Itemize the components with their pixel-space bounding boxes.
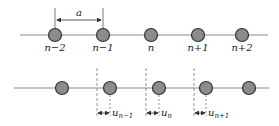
displacement-label: un−1 xyxy=(112,107,133,120)
atom-n-minus-2: n−2 xyxy=(44,29,65,54)
atom-label: n xyxy=(148,42,154,53)
atom-n: n xyxy=(145,29,158,54)
displaced-chain: un−1 un un+1 xyxy=(14,68,269,120)
atom-circle xyxy=(236,29,249,42)
equilibrium-chain: a n−2 n−1 n n+1 n+2 xyxy=(20,7,268,53)
atom-circle xyxy=(192,29,205,42)
atom-circle xyxy=(97,29,110,42)
atom-n-plus-1: n+1 xyxy=(187,29,208,54)
atom-circle xyxy=(153,82,166,95)
displacement-label: un+1 xyxy=(208,107,229,120)
atom-circle xyxy=(104,82,117,95)
atom-circle xyxy=(200,82,213,95)
atom-label: n+1 xyxy=(187,42,208,53)
displacement-label: un xyxy=(161,107,172,120)
atom-label: n−2 xyxy=(44,42,65,53)
atom-circle xyxy=(56,82,69,95)
displacement-n-minus-1: un−1 xyxy=(97,68,133,120)
atom-circle xyxy=(243,82,256,95)
atom-label: n+2 xyxy=(231,42,252,53)
spacing-label: a xyxy=(76,7,82,18)
atom-n-plus-2: n+2 xyxy=(231,29,252,54)
displacement-n: un xyxy=(146,68,172,120)
spacing-dimension: a xyxy=(55,7,103,29)
atom-label: n−1 xyxy=(92,42,113,53)
lattice-diagram: a n−2 n−1 n n+1 n+2 xyxy=(0,0,279,126)
atom-n-minus-1: n−1 xyxy=(92,29,113,54)
atom-circle xyxy=(49,29,62,42)
atom-circle xyxy=(145,29,158,42)
displacement-n-plus-1: un+1 xyxy=(194,68,229,120)
